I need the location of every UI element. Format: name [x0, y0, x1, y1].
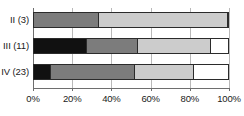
y-axis-label: II (3) — [0, 15, 29, 25]
gridline-100pct — [229, 8, 230, 88]
x-axis-tick — [72, 88, 73, 91]
x-axis-tick — [190, 88, 191, 91]
x-axis-tick — [33, 88, 34, 91]
bar-segment — [87, 39, 138, 53]
x-axis-tick-label: 60% — [141, 93, 159, 104]
x-axis-tick — [151, 88, 152, 91]
x-axis-tick — [229, 88, 230, 91]
x-axis-tick — [111, 88, 112, 91]
y-axis-label: III (11) — [0, 41, 29, 51]
bar-segment — [34, 65, 51, 79]
bar-segment — [34, 13, 99, 27]
bar-row — [33, 64, 229, 80]
bar-row — [33, 12, 229, 28]
x-axis-tick-label: 20% — [63, 93, 81, 104]
bar-segment — [138, 39, 211, 53]
x-axis-line — [33, 88, 229, 89]
bar-segment — [51, 65, 134, 79]
bar-segment — [135, 65, 194, 79]
x-axis-tick-label: 0% — [26, 93, 39, 104]
bar-segment — [34, 39, 87, 53]
x-axis-tick-label: 100% — [217, 93, 241, 104]
x-axis-tick-label: 80% — [181, 93, 199, 104]
bar-segment — [211, 39, 228, 53]
bar-segment — [194, 65, 228, 79]
stacked-bar-chart: II (3)III (11)IV (23) 0%20%40%60%80%100% — [0, 0, 244, 116]
y-axis-label: IV (23) — [0, 67, 29, 77]
bar-row — [33, 38, 229, 54]
plot-area — [33, 8, 229, 88]
x-axis-tick-label: 40% — [102, 93, 120, 104]
bar-segment — [99, 13, 228, 27]
